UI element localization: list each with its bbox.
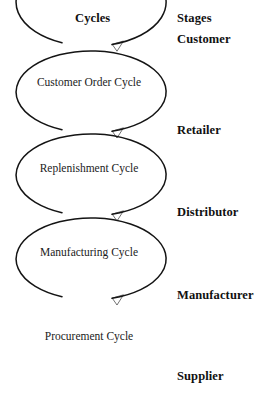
- stage-label-distributor: Distributor: [177, 205, 239, 220]
- cycle-ellipses-graphic: [0, 0, 265, 404]
- cycle-label-manufacturing: Manufacturing Cycle: [13, 246, 165, 258]
- cycle-view-diagram: Cycles Stages Customer Order Cycle Reple…: [0, 0, 265, 404]
- stage-label-customer: Customer: [177, 32, 231, 47]
- cycle-arc-3: [16, 134, 166, 221]
- cycle-label-customer-order: Customer Order Cycle: [13, 76, 165, 88]
- cycle-arc-2: [16, 51, 166, 138]
- cycle-arc-4: [16, 218, 166, 305]
- cycle-label-procurement: Procurement Cycle: [13, 330, 165, 342]
- stage-label-retailer: Retailer: [177, 123, 221, 138]
- stage-label-supplier: Supplier: [177, 369, 224, 384]
- cycle-arc-1: [16, 0, 166, 51]
- cycle-label-replenishment: Replenishment Cycle: [13, 162, 165, 174]
- stage-label-manufacturer: Manufacturer: [177, 288, 254, 303]
